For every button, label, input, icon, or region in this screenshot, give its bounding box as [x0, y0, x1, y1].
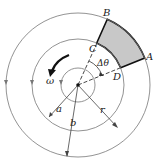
label-c: C [89, 43, 97, 54]
label-a-point: A [145, 51, 153, 62]
outer-circle-arrow-icon [4, 80, 8, 85]
label-r-radius: r [100, 104, 106, 115]
label-b-radius: b [70, 117, 76, 128]
label-a-radius: a [56, 103, 62, 114]
inner-circle-arrow-icon [59, 80, 63, 85]
label-omega: ω [46, 75, 54, 86]
radius-r-line [78, 85, 117, 127]
center-point [76, 83, 80, 87]
label-delta-theta: Δθ [96, 58, 109, 68]
middle-circle-arrow-icon [30, 80, 34, 85]
delta-theta-arrow-icon [99, 72, 104, 76]
rotating-disk-diagram: B A C D Δθ ω a b r [0, 0, 157, 165]
omega-rotation-arrow-icon [52, 55, 69, 71]
label-b: B [102, 7, 110, 18]
label-d: D [112, 71, 121, 82]
